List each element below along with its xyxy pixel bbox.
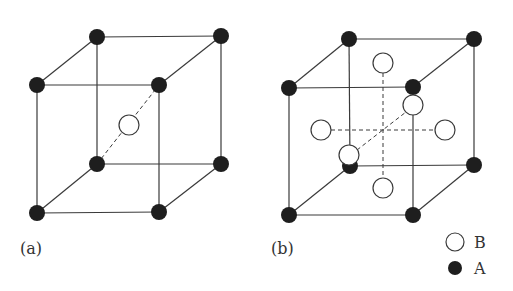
atom-b-left-face	[311, 120, 331, 140]
atom-a	[281, 80, 297, 96]
atom-a	[281, 207, 297, 223]
atom-a	[89, 29, 105, 45]
crystal-structure-diagram: (a) (b)	[0, 0, 513, 291]
legend-label-b: B	[474, 233, 486, 252]
atom-a	[341, 31, 357, 47]
atom-b-front-face	[403, 95, 423, 115]
atom-a	[151, 204, 167, 220]
atom-a	[466, 31, 482, 47]
atom-a	[151, 77, 167, 93]
atom-b-body-center	[119, 115, 139, 135]
panel-a-label: (a)	[20, 239, 42, 258]
legend-label-a: A	[473, 259, 486, 278]
atom-a	[405, 79, 421, 95]
atom-b-back-face	[339, 145, 359, 165]
atom-b-right-face	[435, 120, 455, 140]
atom-a	[213, 156, 229, 172]
legend: B A	[446, 233, 486, 278]
legend-filled-circle-icon	[448, 261, 462, 275]
panel-b-label: (b)	[271, 239, 294, 258]
atom-a	[29, 205, 45, 221]
atom-b-bottom-face	[373, 178, 393, 198]
panel-a-cube	[29, 28, 229, 221]
atom-a	[405, 207, 421, 223]
atom-a	[89, 156, 105, 172]
atom-b-top-face	[373, 53, 393, 73]
atom-a	[213, 28, 229, 44]
legend-open-circle-icon	[446, 233, 464, 251]
panel-b-cube	[281, 31, 482, 223]
atom-a	[29, 77, 45, 93]
atom-a	[466, 157, 482, 173]
